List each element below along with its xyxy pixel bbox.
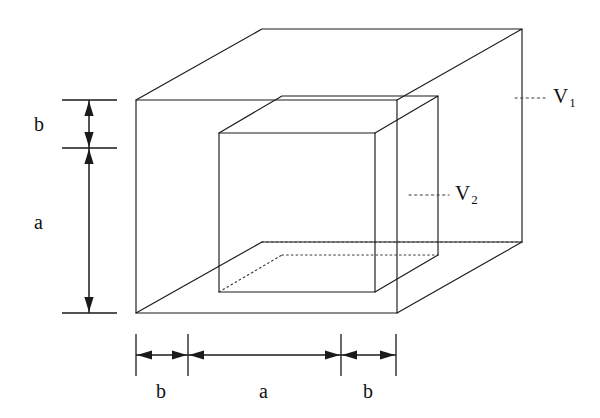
outer-box-top-face-edges xyxy=(136,29,522,100)
figure-canvas: b a b a b V1 V2 xyxy=(0,0,600,418)
horizontal-dimension-label-b-left: b xyxy=(156,381,166,401)
outer-box xyxy=(136,29,522,313)
inner-cube-front-face-edges xyxy=(219,133,375,292)
outer-box-bottom-face-edges xyxy=(262,242,522,313)
horizontal-dim-a-arrowhead-left xyxy=(189,350,204,359)
horizontal-dimension-group xyxy=(136,334,396,376)
inner-cube-volume-letter: V xyxy=(455,181,470,205)
vertical-dim-b-arrowhead-up xyxy=(84,101,93,116)
vertical-dim-b-arrowhead-down xyxy=(84,132,93,147)
vertical-dimension-group xyxy=(62,100,117,313)
inner-cube-volume-subscript: 2 xyxy=(471,192,478,207)
vertical-dim-a-arrowhead-down xyxy=(84,297,93,312)
horizontal-dim-b-left-arrowhead-left xyxy=(137,350,152,359)
horizontal-dimension-label-a: a xyxy=(259,381,268,401)
horizontal-dim-b-right-arrowhead-right xyxy=(380,350,395,359)
inner-cube-top-face-edges xyxy=(219,96,438,133)
inner-cube xyxy=(219,96,438,292)
outer-box-front-face-edges xyxy=(136,100,397,313)
vertical-dimension-label-a: a xyxy=(34,212,43,232)
inner-cube-volume-label: V2 xyxy=(455,183,477,204)
vertical-dim-a-arrowhead-up xyxy=(84,149,93,164)
outer-box-volume-label: V1 xyxy=(553,86,575,107)
vertical-dimension-label-b: b xyxy=(34,114,44,134)
horizontal-dim-a-arrowhead-right xyxy=(325,350,340,359)
leader-lines xyxy=(409,98,548,195)
inner-cube-bottom-right-diagonal xyxy=(375,255,438,292)
box-volume-diagram xyxy=(0,0,600,418)
horizontal-dimension-label-b-right: b xyxy=(363,381,373,401)
horizontal-dim-b-left-arrowhead-right xyxy=(172,350,187,359)
inner-cube-hidden-edges xyxy=(219,255,438,292)
outer-box-volume-letter: V xyxy=(553,84,568,108)
outer-box-volume-subscript: 1 xyxy=(569,95,576,110)
horizontal-dim-b-right-arrowhead-left xyxy=(342,350,357,359)
